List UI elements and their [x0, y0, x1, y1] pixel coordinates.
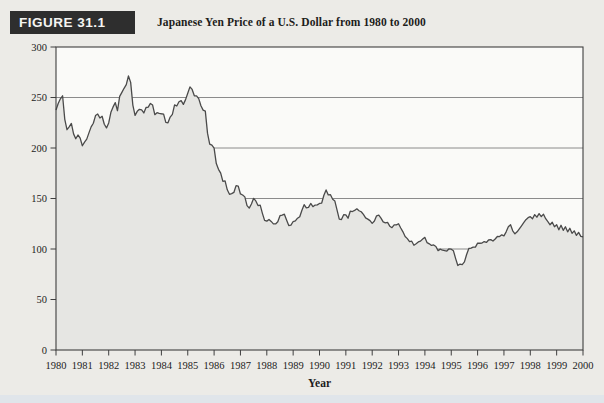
- x-tick-label-1993: 1993: [388, 360, 409, 371]
- y-tick-label-300: 300: [31, 42, 47, 53]
- x-axis-title: Year: [308, 377, 331, 389]
- x-tick-label-1986: 1986: [204, 360, 225, 371]
- x-tick-label-1985: 1985: [177, 360, 198, 371]
- y-tick-label-100: 100: [31, 244, 47, 255]
- x-tick-label-1990: 1990: [309, 360, 330, 371]
- x-tick-label-1995: 1995: [441, 360, 462, 371]
- x-tick-label-1984: 1984: [151, 360, 173, 371]
- x-tick-label-1999: 1999: [546, 360, 567, 371]
- x-tick-label-1994: 1994: [414, 360, 436, 371]
- x-tick-label-1991: 1991: [335, 360, 356, 371]
- x-tick-label-1983: 1983: [125, 360, 146, 371]
- x-tick-label-1980: 1980: [46, 360, 67, 371]
- x-tick-label-1992: 1992: [362, 360, 383, 371]
- x-tick-label-1982: 1982: [98, 360, 119, 371]
- x-tick-label-1997: 1997: [493, 360, 514, 371]
- textbook-figure: FIGURE 31.1 Japanese Yen Price of a U.S.…: [0, 0, 604, 403]
- y-tick-label-250: 250: [31, 92, 47, 103]
- x-tick-label-2000: 2000: [573, 360, 594, 371]
- x-tick-label-1988: 1988: [256, 360, 277, 371]
- y-tick-label-150: 150: [31, 193, 47, 204]
- page-bottom-band: [0, 395, 604, 403]
- x-tick-label-1989: 1989: [283, 360, 304, 371]
- x-tick-label-1981: 1981: [72, 360, 93, 371]
- exchange-rate-area-chart: 0501001502002503001980198119821983198419…: [0, 0, 604, 403]
- x-tick-label-1996: 1996: [467, 360, 488, 371]
- y-tick-label-50: 50: [37, 294, 48, 305]
- y-tick-label-0: 0: [42, 345, 47, 356]
- x-tick-label-1987: 1987: [230, 360, 251, 371]
- x-tick-label-1998: 1998: [520, 360, 541, 371]
- y-tick-label-200: 200: [31, 143, 47, 154]
